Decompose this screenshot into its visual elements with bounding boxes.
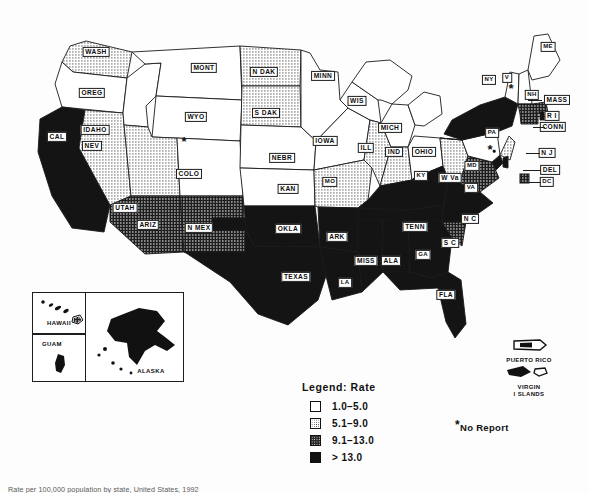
legend-swatch-light-stipple — [310, 418, 321, 429]
state-label-ia: IOWA — [313, 136, 338, 146]
state-label-nh: NH — [525, 90, 539, 100]
state-shape-CO — [177, 138, 243, 196]
state-label-pa: PA — [485, 128, 499, 138]
state-label-tx: TEXAS — [281, 272, 310, 282]
state-label-ar: ARK — [327, 232, 348, 242]
state-shape-AR — [318, 207, 358, 252]
leader-line-ri — [535, 116, 545, 117]
state-label-ca: CAL — [47, 132, 67, 142]
state-label-wy: WYO — [185, 112, 207, 122]
state-label-va: VA — [464, 183, 478, 193]
legend-row-1: 1.0–5.0 — [310, 398, 446, 415]
leader-line-mass — [528, 100, 542, 101]
state-label-sd: S DAK — [252, 108, 280, 118]
state-label-sc: S C — [441, 238, 459, 248]
no-report-note: *No Report — [455, 418, 509, 433]
virgin-islands-shape — [503, 364, 555, 380]
leader-line-del — [523, 170, 541, 171]
virgin-islands-label-line1: VIRGIN — [492, 384, 566, 391]
state-label-wv: W Va — [439, 173, 462, 183]
no-report-asterisk-wy: * — [181, 138, 186, 146]
state-shape-FL — [383, 272, 466, 338]
state-shape-ME — [528, 34, 560, 80]
state-label-oh: OHIO — [412, 147, 436, 157]
state-label-ny: NY — [482, 75, 496, 85]
state-label-ri: R I — [545, 111, 560, 121]
state-label-mn: MINN — [311, 71, 335, 81]
legend-title: Legend: Rate — [302, 381, 446, 393]
state-shape-NE — [240, 125, 316, 170]
state-label-al: ALA — [381, 256, 401, 266]
guam-inset-cell: GUAM — [32, 334, 86, 382]
legend-label-4: > 13.0 — [332, 452, 362, 463]
state-label-mt: MONT — [191, 63, 217, 73]
puerto-rico-territory: PUERTO RICO — [492, 337, 566, 364]
legend: Legend: Rate 1.0–5.0 5.1–9.0 9.1–13.0 > … — [296, 381, 446, 466]
leader-line-conn — [533, 127, 545, 128]
state-label-nc: N C — [461, 214, 479, 224]
no-report-asterisk-vt: * — [508, 85, 513, 93]
puerto-rico-label: PUERTO RICO — [492, 357, 566, 364]
legend-swatch-solid-black — [310, 452, 321, 463]
leader-line-dc — [525, 182, 541, 183]
state-label-ok: OKLA — [275, 224, 301, 234]
state-label-tn: TENN — [403, 222, 428, 232]
inset-map-box: HAWAII GUAM ALASKA — [32, 292, 184, 382]
state-shape-NY — [444, 97, 518, 140]
guam-shape — [33, 335, 87, 383]
virgin-islands-label-line2: I SLANDS — [492, 391, 566, 398]
state-label-az: ARIZ — [137, 220, 159, 230]
legend-label-3: 9.1–13.0 — [332, 435, 374, 446]
map-figure: WASHOREGCALNEVIDAHOMONTWYOUTAHCOLOARIZN … — [0, 0, 589, 493]
state-label-de: DEL — [540, 165, 560, 175]
state-label-ga: GA — [416, 250, 431, 260]
state-label-nv: NEV — [82, 141, 102, 151]
state-label-wa: WASH — [83, 47, 110, 57]
state-shape-SD — [241, 86, 301, 127]
state-label-mi: MICH — [378, 123, 402, 133]
state-label-ne: NEBR — [269, 153, 295, 163]
state-label-ut: UTAH — [113, 203, 138, 213]
legend-label-1: 1.0–5.0 — [332, 401, 368, 412]
hawaii-islands — [33, 293, 87, 335]
state-label-la: LA — [338, 278, 352, 288]
alaska-label: ALASKA — [136, 368, 167, 376]
state-label-fl: FLA — [436, 290, 455, 300]
hawaii-inset-cell: HAWAII — [32, 292, 86, 334]
state-label-ks: KAN — [278, 184, 299, 194]
state-label-in: IND — [385, 147, 403, 157]
state-label-md: MD — [464, 161, 479, 171]
virgin-islands-territory: VIRGIN I SLANDS — [492, 364, 566, 398]
state-label-ms: MISS — [354, 256, 377, 266]
state-label-id: IDAHO — [81, 125, 110, 135]
state-label-ky: KY — [414, 171, 428, 181]
state-label-nm: N MEX — [185, 223, 213, 233]
leader-line-nj — [526, 153, 540, 154]
no-report-text: No Report — [460, 422, 509, 433]
state-shape-DE — [503, 156, 508, 168]
state-label-co: COLO — [176, 169, 202, 179]
state-label-nj: N J — [539, 148, 556, 158]
legend-label-2: 5.1–9.0 — [332, 418, 368, 429]
state-label-me: ME — [541, 42, 556, 52]
legend-row-4: > 13.0 — [310, 449, 446, 466]
puerto-rico-shape — [506, 337, 552, 353]
figure-caption: Rate per 100,000 population by state, Un… — [8, 485, 583, 493]
state-label-dc: DC — [540, 177, 554, 187]
legend-row-3: 9.1–13.0 — [310, 432, 446, 449]
state-shape-CT — [520, 113, 538, 124]
state-label-nd: N DAK — [250, 67, 278, 77]
legend-swatch-white — [310, 401, 321, 412]
state-label-ma: MASS — [544, 95, 570, 105]
legend-row-2: 5.1–9.0 — [310, 415, 446, 432]
state-label-mo: MO — [322, 177, 337, 187]
pa-center-dot — [493, 150, 496, 153]
state-label-il: ILL — [358, 143, 374, 153]
state-label-or: OREG — [79, 88, 105, 98]
legend-swatch-dark-stipple — [310, 435, 321, 446]
state-label-wi: WIS — [348, 96, 367, 106]
hawaii-label: HAWAII — [45, 320, 72, 328]
